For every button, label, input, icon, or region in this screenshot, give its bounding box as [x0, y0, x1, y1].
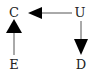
node-d: D: [76, 57, 86, 72]
node-u: U: [75, 5, 86, 20]
arrowhead-up-icon: [6, 19, 22, 33]
node-e: E: [9, 57, 19, 72]
diagram-canvas: C U E D: [0, 0, 95, 76]
edge-u-to-d: [74, 21, 88, 55]
arrowhead-down-icon: [74, 39, 88, 55]
node-c: C: [9, 5, 19, 20]
arrowhead-left-icon: [28, 7, 42, 19]
edge-u-to-c: [28, 7, 72, 19]
edge-e-to-c: [6, 19, 22, 55]
